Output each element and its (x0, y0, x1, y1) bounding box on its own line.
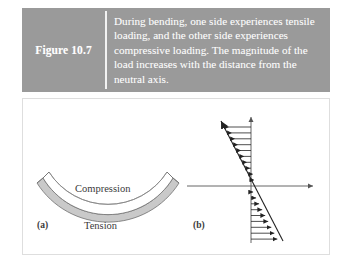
compression-label: Compression (75, 183, 130, 194)
figure-panel: Compression Tension (a) (22, 98, 330, 255)
tension-label: Tension (84, 220, 117, 231)
figure-caption-cell: During bending, one side experiences ten… (107, 8, 330, 92)
figure-root: Figure 10.7 During bending, one side exp… (0, 0, 349, 273)
stress-distribution-diagram (187, 105, 323, 248)
subfigure-a-key: (a) (37, 220, 48, 230)
subfigure-b-key: (b) (193, 220, 205, 230)
figure-panel-inner: Compression Tension (a) (29, 105, 323, 248)
figure-caption-band: Figure 10.7 During bending, one side exp… (22, 8, 330, 92)
figure-caption-text: During bending, one side experiences ten… (114, 14, 322, 86)
figure-number-label: Figure 10.7 (35, 44, 91, 56)
subfigure-a: Compression Tension (a) (29, 105, 187, 248)
subfigure-b: (b) (187, 105, 323, 248)
figure-label-cell: Figure 10.7 (22, 8, 105, 92)
lower-stress-arrows (251, 192, 277, 239)
